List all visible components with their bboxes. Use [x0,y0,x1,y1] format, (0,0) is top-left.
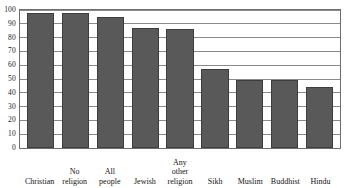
bar [306,87,333,148]
x-axis-tick-label-line: Buddhist [271,177,300,187]
x-axis-tick-label-line: Christian [25,177,54,187]
bar [271,80,298,148]
bar-slot [128,10,163,148]
x-axis-tick-label: Muslim [233,150,268,188]
bar-slot [58,10,93,148]
x-axis-tick-label: Hindu [303,150,338,188]
x-axis-tick-label: Sikh [198,150,233,188]
bar-slot [197,10,232,148]
bar-slot [23,10,58,148]
bar-slot [302,10,337,148]
x-axis-tick-label: Christian [22,150,57,188]
y-axis-tick-label: 0 [12,144,16,152]
y-axis-tick-label: 40 [8,89,16,97]
y-axis-tick-label: 90 [8,20,16,28]
x-axis-tick-label: Allpeople [92,150,127,188]
y-axis-tick-label: 60 [8,61,16,69]
bar [236,80,263,148]
x-axis-tick-label-line: Sikh [208,177,223,187]
bar [27,13,54,148]
x-axis-tick-label-line: Hindu [310,177,330,187]
bar [97,17,124,148]
x-axis-tick-label-line: other [172,167,188,177]
x-axis-tick-label: Noreligion [57,150,92,188]
x-axis-tick-label-line: religion [62,177,87,187]
bar-slot [232,10,267,148]
bar-slot [267,10,302,148]
y-axis: 0102030405060708090100 [0,0,19,154]
bar-chart-figure: 0102030405060708090100 ChristianNoreligi… [0,0,351,188]
x-axis-tick-label-line: Any [173,158,187,168]
bar [166,29,193,148]
x-axis-tick-label: Buddhist [268,150,303,188]
x-axis-tick-label-line: Muslim [238,177,263,187]
bar-series [20,10,340,148]
x-axis-tick-label-line: No [70,167,80,177]
x-axis-tick-label-line: religion [168,177,193,187]
bar-slot [93,10,128,148]
y-axis-tick-label: 20 [8,117,16,125]
bar [62,13,89,148]
y-axis-tick-label: 50 [8,75,16,83]
y-axis-tick-label: 10 [8,130,16,138]
x-axis-tick-label-line: people [99,177,120,187]
y-axis-tick-label: 30 [8,103,16,111]
bar [201,69,228,148]
y-axis-tick-label: 100 [4,6,16,14]
x-axis-tick-label-line: All [105,167,115,177]
plot-area [19,9,341,149]
bar-slot [163,10,198,148]
x-axis-tick-label: Anyotherreligion [162,150,197,188]
plot-inner [20,10,340,148]
y-axis-tick-label: 80 [8,34,16,42]
bar [132,28,159,148]
x-axis: ChristianNoreligionAllpeopleJewishAnyoth… [19,150,341,188]
y-axis-tick-label: 70 [8,48,16,56]
x-axis-tick-label-line: Jewish [134,177,156,187]
x-axis-tick-label: Jewish [127,150,162,188]
